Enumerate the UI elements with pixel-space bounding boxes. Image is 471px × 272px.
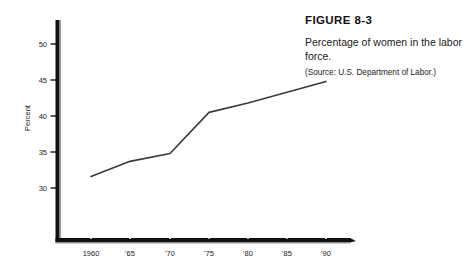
x-tick-label-80: '80 <box>243 249 253 258</box>
x-tick-label-90: '90 <box>321 249 331 258</box>
data-series-line <box>91 81 326 176</box>
x-tick-label-1960: 1960 <box>83 249 100 258</box>
y-axis <box>56 20 61 242</box>
y-tick-label-30: 30 <box>39 184 47 193</box>
y-tick-label-45: 45 <box>39 76 47 85</box>
y-axis-title: Percent <box>23 104 32 131</box>
figure-8-3: 50 45 40 35 30 Percent 1960 '65 '70 '75 <box>0 0 471 272</box>
x-axis <box>56 238 357 243</box>
y-tick-label-50: 50 <box>39 40 47 49</box>
y-tick-label-35: 35 <box>39 148 47 157</box>
x-tick-label-85: '85 <box>282 249 292 258</box>
x-tick-label-75: '75 <box>204 249 214 258</box>
figure-number-label: FIGURE 8-3 <box>305 14 465 27</box>
x-tick-label-65: '65 <box>125 249 135 258</box>
figure-source-note: (Source: U.S. Department of Labor.) <box>305 68 465 79</box>
figure-caption-text: Percentage of women in the labor force. <box>305 36 465 64</box>
y-axis-ticks <box>51 44 57 188</box>
x-tick-label-70: '70 <box>165 249 175 258</box>
y-tick-label-40: 40 <box>39 112 47 121</box>
figure-caption-block: FIGURE 8-3 Percentage of women in the la… <box>305 14 465 78</box>
